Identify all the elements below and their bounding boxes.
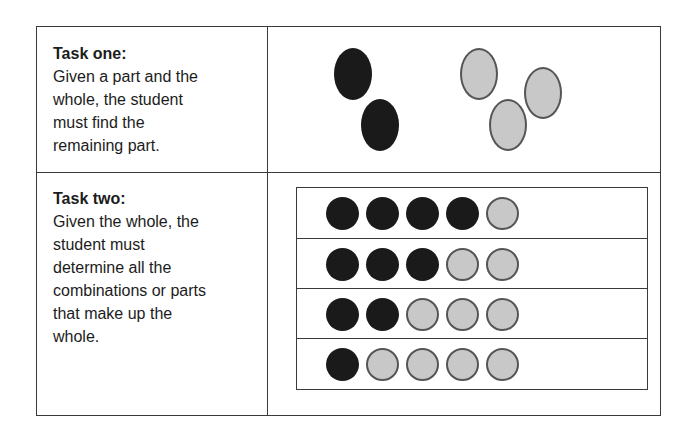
gray-counter	[489, 99, 527, 151]
gray-counter	[406, 298, 439, 331]
black-counter	[326, 248, 359, 281]
gray-counter	[460, 48, 498, 100]
gray-counter	[406, 348, 439, 381]
task-two-line: determine all the	[53, 256, 263, 279]
task-one-line: Given a part and the	[53, 65, 263, 88]
task-one-title: Task one:	[53, 42, 263, 65]
task-two-line: that make up the	[53, 302, 263, 325]
combination-row	[297, 288, 647, 339]
black-counter	[406, 248, 439, 281]
task-one-line: remaining part.	[53, 134, 263, 157]
column-divider	[267, 27, 268, 415]
task-two-line: whole.	[53, 325, 263, 348]
combination-row	[297, 338, 647, 389]
black-counter	[366, 248, 399, 281]
black-counter	[366, 197, 399, 230]
task-two-title: Task two:	[53, 187, 263, 210]
gray-counter	[524, 67, 562, 119]
task-two-line: combinations or parts	[53, 279, 263, 302]
gray-counter	[486, 248, 519, 281]
gray-counter	[446, 248, 479, 281]
task-one-line: must find the	[53, 111, 263, 134]
combination-row	[297, 188, 647, 239]
task-one-description: Task one: Given a part and the whole, th…	[53, 42, 263, 157]
gray-counter	[446, 298, 479, 331]
task-one-line: whole, the student	[53, 88, 263, 111]
row-divider	[37, 172, 660, 173]
gray-counter	[486, 298, 519, 331]
gray-counter	[446, 348, 479, 381]
black-counter	[326, 197, 359, 230]
task-two-description: Task two: Given the whole, the student m…	[53, 187, 263, 348]
black-counter	[334, 48, 372, 100]
gray-counter	[486, 197, 519, 230]
task-two-line: Given the whole, the	[53, 210, 263, 233]
task-two-line: student must	[53, 233, 263, 256]
black-counter	[446, 197, 479, 230]
black-counter	[326, 298, 359, 331]
gray-counter	[366, 348, 399, 381]
combination-row	[297, 238, 647, 289]
black-counter	[406, 197, 439, 230]
black-counter	[361, 99, 399, 151]
gray-counter	[486, 348, 519, 381]
combinations-box	[296, 187, 648, 390]
black-counter	[366, 298, 399, 331]
black-counter	[326, 348, 359, 381]
